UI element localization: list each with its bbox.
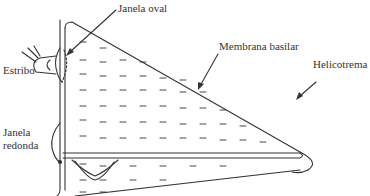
helicotrema-pointer <box>300 82 316 96</box>
membrane-wave <box>72 160 118 176</box>
stapes-inner <box>47 60 50 70</box>
label-round-window-1: Janela <box>3 126 30 138</box>
label-round-window-2: redonda <box>3 139 38 151</box>
oval-window <box>56 48 63 82</box>
basilar-pointer <box>200 54 218 86</box>
scala-tympani-outline <box>75 170 300 196</box>
arrowhead-icon <box>296 92 303 100</box>
label-stapes: Estribo <box>3 64 35 76</box>
cochlea-wall-inner <box>54 20 60 196</box>
label-oval-window: Janela oval <box>118 2 167 14</box>
label-basilar-membrane: Membrana basilar <box>219 40 299 52</box>
stapes <box>34 56 56 74</box>
round-window <box>52 123 60 162</box>
basilar-membrane <box>63 153 303 158</box>
cochlea-diagram: Janela oval Membrana basilar Helicotrema… <box>0 0 370 196</box>
arrowhead-icon <box>198 82 204 90</box>
label-helicotrema: Helicotrema <box>313 58 367 70</box>
diagram-drawing <box>0 0 370 196</box>
oval-window-pointer <box>70 10 116 52</box>
oval-window <box>62 50 67 82</box>
